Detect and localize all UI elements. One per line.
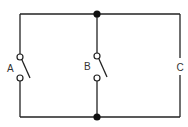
switch-b-blade [99, 59, 107, 77]
label-a: A [7, 63, 14, 74]
label-b: B [84, 61, 91, 72]
switch-a-bottom-terminal [17, 75, 23, 81]
switch-b [94, 53, 107, 81]
top-junction-dot [93, 10, 100, 17]
branch-c: C [177, 14, 184, 117]
switch-a-blade [22, 60, 30, 78]
label-c: C [177, 62, 184, 73]
switch-b-bottom-terminal [94, 75, 100, 81]
switch-a [17, 54, 30, 81]
branch-b: B [84, 14, 107, 117]
circuit-diagram: A B C [0, 0, 188, 127]
switch-b-top-terminal [94, 53, 100, 59]
bottom-junction-dot [93, 113, 100, 120]
switch-a-top-terminal [17, 54, 23, 60]
branch-a: A [7, 14, 30, 117]
